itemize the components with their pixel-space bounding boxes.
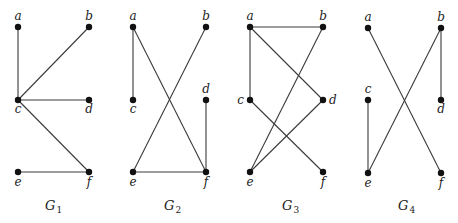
graph-g2: abcdefG2 [129,9,210,215]
vertex-label-b: b [202,9,210,23]
vertex-label-e: e [14,175,21,189]
graph-caption: G3 [282,198,299,215]
vertex-label-f: f [203,175,211,189]
vertex-a [130,24,136,30]
graph-g3: abcdefG3 [237,9,337,215]
graph-caption: G1 [45,198,62,215]
vertex-b [203,24,209,30]
vertex-c [247,97,253,103]
vertex-a [247,24,253,30]
graph-g1: abcdefG1 [14,9,93,215]
edge-b-e [250,27,323,172]
edge-c-f [18,100,89,172]
vertex-label-a: a [246,9,253,23]
vertex-label-c: c [130,102,137,116]
vertex-label-e: e [364,176,371,190]
vertex-label-b: b [85,9,93,23]
vertex-label-e: e [246,175,253,189]
vertex-label-e: e [129,175,136,189]
vertex-label-f: f [86,175,94,189]
vertex-label-a: a [14,9,21,23]
vertex-label-b: b [319,9,327,23]
vertex-label-a: a [129,9,136,23]
vertex-d [320,97,326,103]
vertex-label-d: d [437,102,445,116]
vertex-b [320,24,326,30]
graph-figure: abcdefG1abcdefG2abcdefG3abcdefG4 [0,0,458,223]
vertex-a [365,25,371,31]
graph-caption: G4 [398,198,415,215]
vertex-c [365,97,371,103]
vertex-label-f: f [438,176,446,190]
vertex-label-d: d [85,102,93,116]
edge-b-c [18,27,89,100]
vertex-label-d: d [202,82,210,96]
graph-g4: abcdefG4 [364,10,445,215]
vertex-label-c: c [365,82,372,96]
graph-caption: G2 [164,198,181,215]
vertex-label-f: f [320,175,328,189]
vertex-label-c: c [15,102,22,116]
vertex-label-c: c [237,93,244,107]
vertex-label-b: b [437,10,445,24]
vertex-a [15,24,21,30]
vertex-b [438,25,444,31]
edge-a-d [250,27,323,100]
vertex-label-a: a [364,10,371,24]
vertex-d [203,97,209,103]
vertex-b [86,24,92,30]
vertex-label-d: d [329,93,337,107]
